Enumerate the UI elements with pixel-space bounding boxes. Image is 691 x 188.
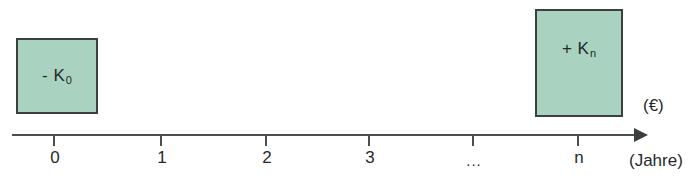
axis-tick-label-1: 1 [142, 148, 182, 168]
axis-tick-label-ellipsis: ... [454, 152, 494, 169]
time-unit-label: (Jahre) [629, 151, 683, 171]
cashflow-box-inflow: + Kn [535, 9, 623, 117]
axis-tick-3 [368, 136, 370, 146]
cashflow-box-outflow-label-text: - K [42, 66, 65, 85]
axis-tick-2 [265, 136, 267, 146]
cashflow-box-inflow-label-subscript: n [590, 47, 597, 59]
axis-tick-ellipsis [472, 136, 474, 146]
cashflow-box-inflow-label-text: + K [562, 39, 590, 58]
axis-tick-n [577, 136, 579, 146]
cashflow-box-inflow-label: + Kn [562, 39, 596, 59]
axis-tick-0 [53, 136, 55, 146]
axis-tick-1 [160, 136, 162, 146]
axis-tick-label-3: 3 [350, 148, 390, 168]
time-axis-line [12, 134, 642, 136]
axis-tick-label-n: n [559, 148, 599, 168]
currency-unit-label: (€) [643, 96, 664, 116]
cashflow-box-outflow-label-subscript: 0 [66, 74, 73, 86]
cashflow-box-outflow: - K0 [16, 38, 98, 114]
axis-tick-label-2: 2 [247, 148, 287, 168]
cashflow-box-outflow-label: - K0 [42, 66, 72, 86]
cash-flow-diagram: - K0 + Kn (€) 0 1 2 3 ... n (Jahre) [0, 0, 691, 188]
axis-tick-label-0: 0 [35, 148, 75, 168]
time-axis-arrowhead-icon [634, 128, 648, 142]
